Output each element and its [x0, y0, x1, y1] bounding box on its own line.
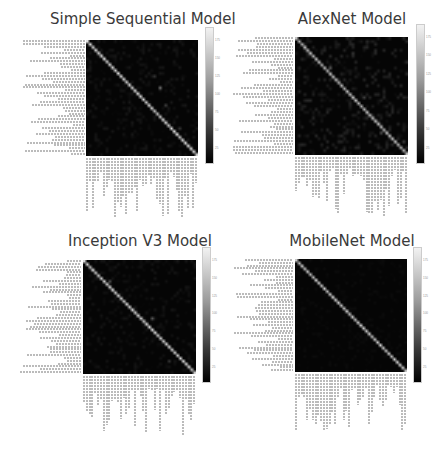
x-tick-label — [323, 374, 325, 431]
x-tick-label — [103, 158, 105, 196]
y-tick-label — [278, 299, 293, 301]
x-tick-label — [111, 376, 113, 401]
y-tick-label — [261, 301, 293, 303]
x-tick-label — [383, 157, 385, 216]
y-tick-label — [42, 127, 85, 129]
y-tick-label — [258, 341, 293, 343]
x-tick-label — [187, 158, 189, 208]
y-tick-label — [264, 137, 293, 139]
y-tick-label — [71, 153, 85, 155]
y-tick-label — [23, 43, 85, 45]
y-tick-label — [64, 357, 81, 359]
x-tick-label — [111, 158, 113, 182]
y-tick-label — [42, 78, 85, 80]
x-tick-label — [159, 376, 161, 431]
y-tick-label — [274, 123, 293, 125]
y-tick-label — [254, 105, 293, 107]
y-tick-label — [56, 314, 81, 316]
x-tick-label — [301, 157, 303, 177]
colorbar-tick-label: 50 — [215, 128, 218, 132]
y-tick-label — [54, 144, 85, 146]
x-tick-label — [337, 157, 339, 213]
y-tick-label — [60, 311, 81, 313]
y-tick-label — [60, 63, 85, 65]
y-tick-label — [258, 304, 293, 306]
y-tick-label — [254, 349, 293, 351]
x-tick-label — [86, 376, 88, 411]
colorbar-tick-label: 75 — [215, 110, 218, 114]
y-tick-label — [243, 72, 293, 74]
y-tick-label — [268, 117, 293, 119]
x-tick-label — [123, 376, 125, 398]
x-tick-label — [315, 157, 317, 196]
y-tick-label — [67, 260, 81, 262]
y-tick-label — [246, 102, 293, 104]
y-tick-label — [272, 361, 293, 363]
y-tick-label — [52, 308, 81, 310]
x-tick-label — [114, 158, 116, 217]
y-tick-label — [237, 296, 293, 298]
x-tick-label — [162, 376, 164, 391]
y-tick-label — [254, 84, 293, 86]
y-tick-label — [27, 142, 85, 144]
x-tick-label — [309, 157, 311, 181]
y-tick-label — [44, 72, 85, 74]
x-tick-label — [312, 157, 314, 197]
x-tick-label — [167, 158, 169, 215]
y-tick-label — [64, 277, 81, 279]
x-tick-label — [92, 158, 94, 208]
x-tick-label — [334, 374, 336, 424]
y-tick-label — [58, 98, 85, 100]
y-tick-label — [274, 58, 293, 60]
x-tick-label — [184, 158, 186, 197]
y-tick-label — [251, 335, 293, 337]
y-axis-labels — [230, 259, 293, 372]
x-tick-label — [397, 157, 399, 204]
x-tick-label — [380, 157, 382, 200]
x-tick-label — [376, 374, 378, 386]
y-tick-label — [67, 360, 81, 362]
colorbar-tick-label: 25 — [215, 146, 218, 150]
x-tick-label — [387, 374, 389, 386]
x-tick-label — [329, 374, 331, 424]
y-tick-label — [63, 107, 85, 109]
y-tick-label — [264, 279, 293, 281]
y-tick-label — [243, 96, 293, 98]
y-tick-label — [271, 111, 293, 113]
x-axis-labels — [83, 376, 196, 436]
x-tick-label — [145, 376, 147, 432]
confusion-matrix — [86, 40, 198, 156]
x-tick-label — [303, 374, 305, 397]
y-tick-label — [255, 37, 293, 39]
x-tick-label — [365, 374, 367, 388]
y-tick-label — [23, 365, 81, 367]
chart-title: Simple Sequential Model — [50, 10, 230, 28]
x-tick-label — [178, 158, 180, 211]
y-tick-label — [48, 300, 81, 302]
x-tick-label — [303, 157, 305, 178]
y-tick-label — [47, 346, 81, 348]
y-tick-label — [259, 262, 293, 264]
colorbar-tick-label: 100 — [423, 311, 428, 315]
x-tick-label — [332, 157, 334, 169]
x-tick-label — [159, 158, 161, 204]
y-tick-label — [280, 81, 293, 83]
x-tick-label — [156, 376, 158, 389]
colorbar-tick-label: 125 — [215, 74, 220, 78]
y-tick-label — [255, 270, 293, 272]
x-tick-label — [176, 376, 178, 391]
x-tick-label — [190, 158, 192, 174]
y-tick-label — [30, 60, 85, 62]
x-tick-label — [320, 374, 322, 422]
y-tick-label — [51, 303, 81, 305]
x-tick-label — [391, 157, 393, 176]
y-tick-label — [273, 355, 293, 357]
x-tick-label — [142, 376, 144, 412]
colorbar-tick-label: 25 — [423, 365, 426, 369]
y-tick-label — [52, 139, 85, 141]
colorbar-tick-label: 150 — [215, 56, 220, 60]
y-tick-label — [252, 358, 293, 360]
x-tick-label — [306, 374, 308, 420]
confusion-matrix — [295, 37, 408, 155]
y-tick-label — [40, 337, 81, 339]
